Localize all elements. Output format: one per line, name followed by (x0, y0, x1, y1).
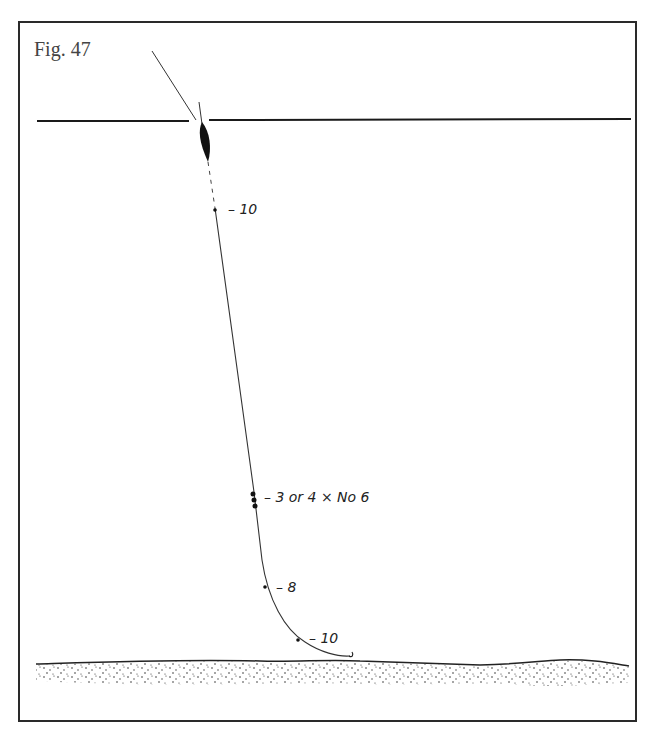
main-line-dashed (208, 162, 215, 208)
shot-mid-label: – 8 (276, 579, 296, 595)
shot-bulk-icon-1 (251, 492, 256, 497)
hook-icon (349, 652, 353, 657)
shot-bottom-label: – 10 (309, 630, 338, 646)
shot-bottom-icon (296, 638, 300, 642)
line-above-surface (152, 51, 196, 120)
shot-bulk-label: – 3 or 4 × No 6 (264, 489, 370, 505)
float-antenna (199, 102, 202, 124)
shot-bulk-icon-3 (253, 504, 258, 509)
shot-top-icon (213, 208, 217, 212)
water-surface-right (209, 119, 631, 120)
river-bed-stipple (36, 661, 629, 686)
shot-bulk-icon-2 (252, 498, 257, 503)
shot-top-label: – 10 (228, 201, 257, 217)
float-icon (200, 122, 210, 162)
shot-mid-icon (263, 585, 267, 589)
